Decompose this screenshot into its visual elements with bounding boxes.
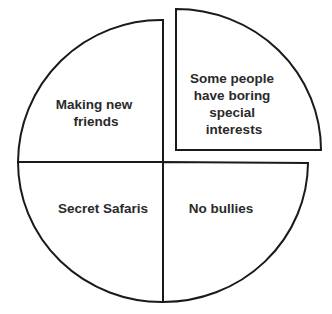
label-line: No bullies — [189, 201, 254, 216]
label-line: Making new — [56, 97, 133, 112]
slice-making-new-friends: Making new friends — [18, 20, 163, 162]
slice-shape — [18, 162, 163, 302]
slice-label: No bullies — [189, 201, 254, 216]
slice-boring-special-interests: Some people have boring special interest… — [176, 9, 321, 150]
slice-label: Secret Safaris — [58, 201, 148, 216]
label-line: have boring — [194, 88, 271, 103]
pie-diagram: Making new friends Secret Safaris No bul… — [0, 0, 332, 314]
slice-shape — [163, 162, 308, 302]
label-line: Some people — [190, 71, 275, 86]
label-line: special — [209, 105, 255, 120]
slice-no-bullies: No bullies — [163, 162, 308, 302]
label-line: interests — [206, 122, 262, 137]
label-line: Secret Safaris — [58, 201, 148, 216]
label-line: friends — [73, 114, 118, 129]
slice-shape — [18, 20, 163, 162]
slice-secret-safaris: Secret Safaris — [18, 162, 163, 302]
